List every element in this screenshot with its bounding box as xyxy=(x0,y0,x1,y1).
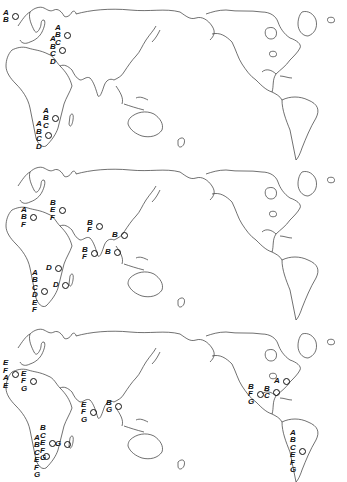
site-label-east-africa: A B C xyxy=(43,107,49,130)
site-label-india: B F xyxy=(82,246,88,261)
site-marker-south-africa xyxy=(41,288,48,295)
site-label-northeast-north-america: A xyxy=(274,377,280,385)
site-marker-east-africa xyxy=(52,115,59,122)
world-map-coastline xyxy=(0,0,347,160)
site-label-british-isles: E F A E xyxy=(3,359,9,389)
site-label-south-africa: A B C D xyxy=(36,120,42,150)
site-marker-eastern-europe xyxy=(59,47,66,54)
site-marker-south-africa xyxy=(43,453,50,460)
site-label-madagascar: D xyxy=(53,281,59,289)
site-label-south-africa: A B C D E F xyxy=(32,269,38,314)
site-marker-british-isles xyxy=(12,371,19,378)
site-label-southeast-asia: B xyxy=(105,248,111,256)
site-label-western-europe: E F G xyxy=(21,370,27,393)
site-marker-madagascar xyxy=(64,441,71,448)
site-marker-madagascar xyxy=(62,282,69,289)
map-2: A B FB E FB FBB FBDDA B C D E F xyxy=(0,160,347,320)
site-label-china: B G xyxy=(106,399,112,414)
map-1: A BA B CA B C DA B CA B C D xyxy=(0,0,347,160)
site-label-great-lakes: B C xyxy=(264,385,270,400)
site-marker-western-europe xyxy=(30,214,37,221)
site-marker-western-europe xyxy=(30,378,37,385)
site-marker-british-isles xyxy=(12,13,19,20)
site-marker-india xyxy=(90,409,97,416)
site-label-south-africa: A B C E F G xyxy=(34,434,40,479)
site-marker-india xyxy=(91,250,98,257)
site-label-east-africa: D xyxy=(46,264,52,272)
site-label-eastern-europe: A B C D xyxy=(50,35,56,65)
site-label-india: E F G xyxy=(81,401,87,424)
site-label-central-asia: B F xyxy=(87,219,93,234)
site-label-central-russia: B E F xyxy=(50,199,56,222)
map-3: E F A EE F GE F GB GB C E F GGA B C E F … xyxy=(0,322,347,482)
site-label-western-europe: A B F xyxy=(21,206,27,229)
site-marker-central-asia xyxy=(96,223,103,230)
site-marker-northeast-north-america xyxy=(283,378,290,385)
site-label-madagascar: G xyxy=(55,440,61,448)
site-marker-east-africa xyxy=(55,265,62,272)
site-marker-western-north-america xyxy=(257,391,264,398)
site-marker-south-africa xyxy=(45,132,52,139)
site-label-china: B xyxy=(112,231,118,239)
site-label-western-north-america: B F G xyxy=(248,383,254,406)
world-map-coastline xyxy=(0,160,347,320)
site-label-south-america: A B C E F G xyxy=(290,429,296,474)
site-marker-central-russia xyxy=(59,207,66,214)
site-marker-southeast-asia xyxy=(114,249,121,256)
site-marker-great-lakes xyxy=(273,389,280,396)
site-marker-china xyxy=(121,232,128,239)
site-marker-china xyxy=(115,403,122,410)
site-marker-northern-russia xyxy=(64,32,71,39)
site-label-british-isles: A B xyxy=(3,9,9,24)
site-marker-south-america xyxy=(299,448,306,455)
